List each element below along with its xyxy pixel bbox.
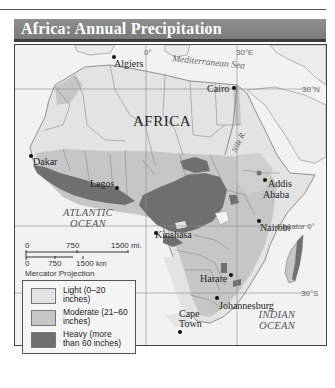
city-label-johannesburg: Johannesburg	[219, 301, 274, 311]
city-label-dakar: Dakar	[33, 157, 57, 167]
scale-km-1500: 1500 km	[76, 259, 107, 268]
city-dot-addis-ababa	[263, 178, 267, 182]
legend-swatch-heavy	[31, 332, 56, 348]
legend-heavy-line2: than 60 inches)	[63, 339, 121, 348]
atlantic-label-line1: ATLANTIC	[43, 207, 133, 218]
legend-light-line2: inches)	[63, 295, 106, 304]
city-label-ababa: Ababa	[263, 190, 289, 200]
scale-mi-750: 750	[66, 241, 79, 250]
scale-mi-1500: 1500 mi.	[111, 241, 142, 250]
legend-item-moderate: Moderate (21–60 inches)	[31, 308, 135, 330]
city-label-kinshasa: Kinshasa	[155, 230, 192, 240]
city-dot-lagos	[115, 186, 119, 190]
indian-ocean-label: INDIAN OCEAN	[247, 309, 307, 331]
legend-moderate-line2: inches)	[63, 317, 128, 326]
longitude-30e-label: 30°E	[236, 48, 253, 58]
title-bar: Africa: Annual Precipitation	[14, 19, 326, 42]
city-label-lagos: Lagos	[90, 179, 114, 189]
longitude-0-label: 0°	[144, 48, 152, 58]
scale-km-750: 750	[48, 259, 61, 268]
top-rule	[0, 9, 326, 10]
projection-label: Mercator Projection	[25, 269, 94, 278]
indian-label-line2: OCEAN	[247, 320, 307, 331]
city-label-nairobi: Nairobi	[260, 223, 291, 233]
atlantic-label-line2: OCEAN	[43, 218, 133, 229]
city-label-cairo: Cairo	[207, 84, 229, 94]
city-label-town: Town	[179, 319, 202, 329]
city-label-algiers: Algiers	[114, 59, 143, 69]
latitude-30n-label: 30°N	[302, 85, 320, 95]
scale-mi-0: 0	[25, 241, 29, 250]
city-label-addis: Addis	[268, 179, 292, 189]
city-dot-cape-town	[178, 330, 182, 334]
atlantic-ocean-label: ATLANTIC OCEAN	[43, 207, 133, 229]
legend: Light (0–20 inches) Moderate (21–60 inch…	[22, 280, 136, 354]
legend-label-moderate: Moderate (21–60 inches)	[63, 308, 128, 326]
latitude-30s-label: 30°S	[301, 289, 318, 299]
legend-swatch-light	[31, 288, 56, 304]
legend-swatch-moderate	[31, 310, 56, 326]
legend-item-heavy: Heavy (more than 60 inches)	[31, 330, 135, 352]
city-dot-harare	[229, 273, 233, 277]
scale-km-0: 0	[25, 259, 29, 268]
city-dot-cairo	[232, 86, 236, 90]
city-label-harare: Harare	[200, 274, 227, 284]
legend-label-light: Light (0–20 inches)	[63, 286, 106, 304]
continent-label: AFRICA	[133, 116, 191, 126]
map-title: Africa: Annual Precipitation	[21, 20, 222, 38]
legend-label-heavy: Heavy (more than 60 inches)	[63, 330, 121, 348]
legend-item-light: Light (0–20 inches)	[31, 286, 135, 308]
